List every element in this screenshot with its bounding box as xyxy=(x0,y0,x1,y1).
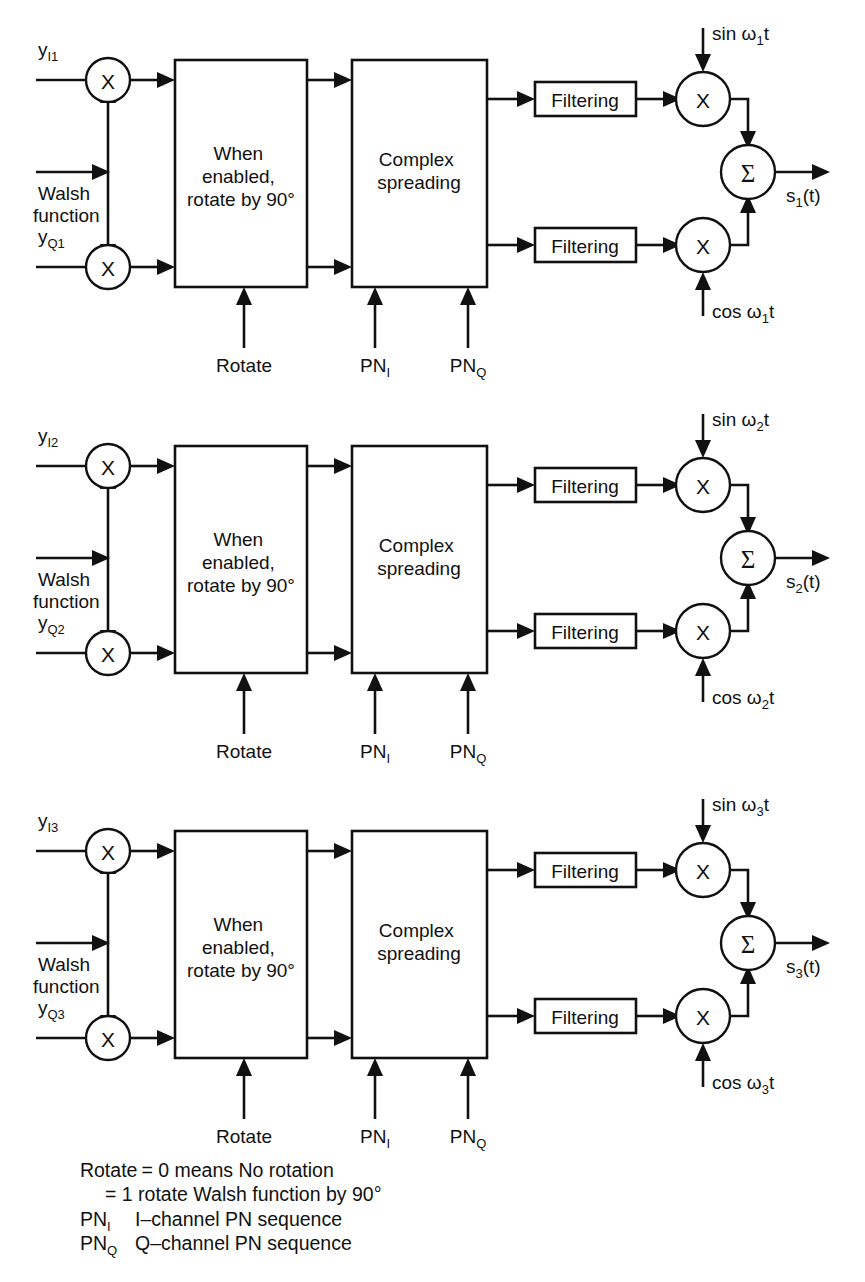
filtering-label-upper-1: Filtering xyxy=(551,90,619,111)
mult-to-rotate-wires-1 xyxy=(130,72,175,275)
sin-carrier-wire-1 xyxy=(695,28,711,72)
mixer-cos-glyph-2: X xyxy=(696,621,710,644)
filtering-label-upper-2: Filtering xyxy=(551,476,619,497)
pn-i-wire-3 xyxy=(367,1058,383,1119)
rotate-control-wire-1 xyxy=(236,287,252,348)
pn-i-control-label-2: PNI xyxy=(360,741,390,766)
pn-i-wire-1 xyxy=(367,287,383,348)
input-q-label-2: yQ2 xyxy=(38,612,65,637)
pn-q-control-label-2: PNQ xyxy=(450,741,487,766)
summer-glyph-2: Σ xyxy=(741,546,756,573)
pn-i-control-label-3: PNI xyxy=(360,1126,390,1151)
rotate-to-spread-wires-2 xyxy=(307,458,352,661)
filter-to-mixer-wires-2 xyxy=(636,477,681,639)
mult-to-rotate-wires-2 xyxy=(130,458,175,661)
channel-group-1: yI1 yQ1 Walsh function X X xyxy=(33,23,830,380)
mixer-sin-glyph-2: X xyxy=(696,475,710,498)
rotate-control-label-3: Rotate xyxy=(216,1126,272,1147)
pn-i-wire-2 xyxy=(367,673,383,734)
spread-to-filter-wires-3 xyxy=(487,862,535,1024)
legend-line-4-term: PNQ xyxy=(42,1232,144,1259)
multiplier-i-glyph-1: X xyxy=(101,70,115,93)
output-wire-1 xyxy=(775,164,830,180)
sin-carrier-wire-2 xyxy=(695,414,711,458)
walsh-label-line1-3: Walsh xyxy=(38,954,90,975)
pn-q-wire-1 xyxy=(460,287,476,348)
rotate-control-label-2: Rotate xyxy=(216,741,272,762)
filter-to-mixer-wires-1 xyxy=(636,91,681,253)
output-label-1: s1(t) xyxy=(786,185,821,210)
input-i-label-2: yI2 xyxy=(38,425,58,450)
cos-carrier-wire-3 xyxy=(695,1043,711,1087)
summer-glyph-1: Σ xyxy=(741,160,756,187)
input-i-label-3: yI3 xyxy=(38,810,58,835)
channel-group-2: yI2 yQ2 Walsh function X X xyxy=(33,409,830,766)
legend-line-3-term: PNI xyxy=(42,1208,138,1235)
walsh-label-line1-2: Walsh xyxy=(38,569,90,590)
mixer-sin-glyph-3: X xyxy=(696,860,710,883)
output-wire-3 xyxy=(775,935,830,951)
output-wire-2 xyxy=(775,550,830,566)
pn-q-wire-2 xyxy=(460,673,476,734)
walsh-label-line2-3: function xyxy=(33,976,100,997)
rotate-control-wire-3 xyxy=(236,1058,252,1119)
rotate-to-spread-wires-3 xyxy=(307,843,352,1046)
filtering-label-lower-1: Filtering xyxy=(551,236,619,257)
multiplier-q-glyph-1: X xyxy=(101,257,115,280)
block-diagram: yI1 yQ1 Walsh function X X xyxy=(0,0,865,1282)
cos-carrier-label-3: cos ω3t xyxy=(712,1072,775,1097)
cos-carrier-label-2: cos ω2t xyxy=(712,687,775,712)
input-q-label-1: yQ1 xyxy=(38,226,65,251)
input-i-label-1: yI1 xyxy=(38,39,58,64)
multiplier-i-glyph-3: X xyxy=(101,841,115,864)
channel-group-3: yI3 yQ3 Walsh function X X xyxy=(33,794,830,1151)
multiplier-q-glyph-3: X xyxy=(101,1028,115,1051)
input-q-label-3: yQ3 xyxy=(38,997,65,1022)
output-label-3: s3(t) xyxy=(786,956,821,981)
cos-carrier-label-1: cos ω1t xyxy=(712,301,775,326)
mixer-cos-glyph-1: X xyxy=(696,235,710,258)
spread-to-filter-wires-1 xyxy=(487,91,535,253)
multiplier-i-glyph-2: X xyxy=(101,456,115,479)
filtering-label-lower-2: Filtering xyxy=(551,622,619,643)
figure-canvas: yI1 yQ1 Walsh function X X xyxy=(0,0,865,1282)
filtering-label-upper-3: Filtering xyxy=(551,861,619,882)
cos-carrier-wire-1 xyxy=(695,272,711,316)
pn-q-control-label-1: PNQ xyxy=(450,355,487,380)
cos-carrier-wire-2 xyxy=(695,658,711,702)
output-label-2: s2(t) xyxy=(786,571,821,596)
filtering-label-lower-3: Filtering xyxy=(551,1007,619,1028)
rotate-to-spread-wires-1 xyxy=(307,72,352,275)
legend-line-1: Rotate= 0 means No rotation xyxy=(42,1159,361,1181)
multiplier-q-glyph-2: X xyxy=(101,643,115,666)
pn-q-wire-3 xyxy=(460,1058,476,1119)
mixer-cos-glyph-3: X xyxy=(696,1006,710,1029)
filter-to-mixer-wires-3 xyxy=(636,862,681,1024)
legend-line-3-desc: I–channel PN sequence xyxy=(135,1208,342,1230)
sin-carrier-label-1: sin ω1t xyxy=(712,23,770,48)
mult-to-rotate-wires-3 xyxy=(130,843,175,1046)
walsh-label-line2-2: function xyxy=(33,591,100,612)
legend: Rotate= 0 means No rotation = 1 rotate W… xyxy=(42,1159,381,1259)
legend-line-4-desc: Q–channel PN sequence xyxy=(135,1232,352,1254)
spread-to-filter-wires-2 xyxy=(487,477,535,639)
pn-i-control-label-1: PNI xyxy=(360,355,390,380)
sin-carrier-label-3: sin ω3t xyxy=(712,794,770,819)
walsh-label-line1-1: Walsh xyxy=(38,183,90,204)
legend-line-2: = 1 rotate Walsh function by 90° xyxy=(105,1183,381,1205)
rotate-control-label-1: Rotate xyxy=(216,355,272,376)
walsh-label-line2-1: function xyxy=(33,205,100,226)
summer-glyph-3: Σ xyxy=(741,931,756,958)
rotate-control-wire-2 xyxy=(236,673,252,734)
pn-q-control-label-3: PNQ xyxy=(450,1126,487,1151)
sin-carrier-label-2: sin ω2t xyxy=(712,409,770,434)
sin-carrier-wire-3 xyxy=(695,799,711,843)
mixer-sin-glyph-1: X xyxy=(696,89,710,112)
